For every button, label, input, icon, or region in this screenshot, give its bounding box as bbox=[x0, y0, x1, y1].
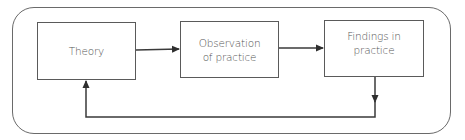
arrow-theory-to-observation bbox=[136, 49, 179, 50]
feedback-loop-line bbox=[86, 81, 375, 117]
connector-arrows bbox=[0, 0, 465, 140]
